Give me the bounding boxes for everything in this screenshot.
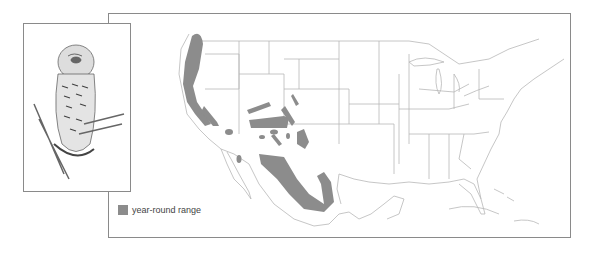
legend-swatch-year-round: [118, 205, 128, 215]
northern-border: [197, 39, 539, 64]
legend-label-year-round: year-round range: [132, 205, 201, 215]
owl-illustration-icon: [24, 24, 130, 191]
map-legend: year-round range: [118, 205, 201, 215]
owl-illustration-frame: [23, 23, 131, 192]
range-polygons: [183, 34, 334, 212]
